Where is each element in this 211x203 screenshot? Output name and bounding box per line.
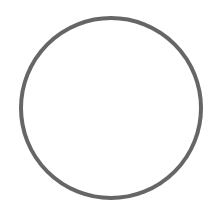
- circle-shape: [21, 18, 201, 198]
- circle-outline-icon: [0, 0, 211, 203]
